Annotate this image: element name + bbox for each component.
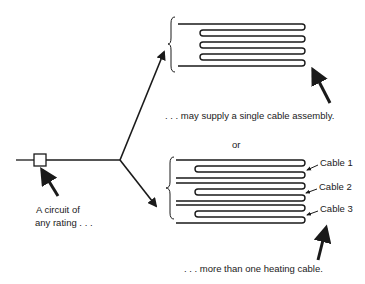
label-cable-2: Cable 2: [319, 181, 352, 193]
label-circuit-line1: A circuit of: [36, 204, 80, 216]
single-cable-assembly: [178, 24, 305, 66]
cable-1: [176, 160, 305, 178]
label-cable-1: Cable 1: [320, 157, 353, 169]
label-single-assembly: . . . may supply a single cable assembly…: [165, 110, 334, 122]
label-multi-cable: . . . more than one heating cable.: [184, 263, 323, 275]
label-circuit-line2: any rating . . .: [35, 217, 93, 229]
label-or: or: [232, 139, 240, 151]
cable-2: [176, 183, 305, 201]
label-cable-3: Cable 3: [320, 203, 353, 215]
arrow-to-circuit-box: [42, 170, 58, 196]
diagram-graphics: [0, 0, 365, 284]
arrow-to-multi-cables: [120, 160, 156, 206]
cable-2-pointer: [306, 189, 317, 193]
cable-3-pointer: [307, 211, 318, 215]
arrow-to-multi-cables-group: [318, 228, 326, 260]
arrow-to-single-assembly: [120, 52, 164, 160]
brace-top: [168, 17, 175, 72]
diagram-canvas: . . . may supply a single cable assembly…: [0, 0, 365, 284]
arrow-to-single-cable: [313, 70, 330, 103]
circuit-breaker-box: [34, 154, 46, 166]
cable-3: [176, 205, 305, 223]
branch-arrows: [120, 52, 164, 206]
cable-1-pointer: [307, 165, 318, 170]
brace-bottom: [166, 157, 174, 219]
circuit-line: [16, 154, 120, 166]
